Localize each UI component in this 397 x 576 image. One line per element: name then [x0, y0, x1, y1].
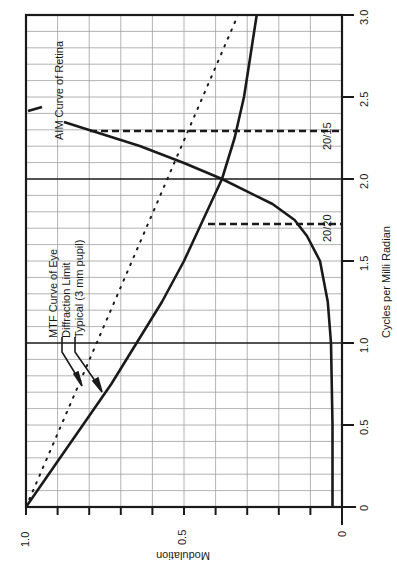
- svg-text:1.5: 1.5: [358, 256, 370, 271]
- label-arrows: [62, 337, 102, 392]
- aim-retina-curve: [64, 122, 333, 507]
- svg-text:2.5: 2.5: [358, 92, 370, 107]
- mtf-title-label: MTF Curve of Eye: [47, 249, 59, 338]
- cycles-axis-labels: 0 0.5 1.0 1.5 2.0 2.5 3.0: [358, 10, 370, 511]
- ref-2020-label: 20/20: [321, 214, 333, 242]
- svg-text:3.0: 3.0: [358, 10, 370, 25]
- diffraction-limit-label: Diffraction Limit: [60, 262, 72, 338]
- svg-text:0: 0: [358, 505, 370, 511]
- svg-text:0.5: 0.5: [358, 420, 370, 435]
- modulation-axis-ticks: [26, 507, 342, 525]
- aim-retina-curve-top: [28, 107, 42, 111]
- svg-text:0: 0: [336, 531, 348, 537]
- svg-text:1.0: 1.0: [19, 532, 31, 547]
- aim-retina-label: AIM Curve of Retina: [53, 40, 65, 140]
- modulation-axis-title: Modulation: [156, 550, 210, 562]
- typical-label: Typical (3 mm pupil): [73, 240, 85, 338]
- cycles-axis-title: Cycles per Milli Radian: [380, 226, 392, 338]
- modulation-axis-labels: 1.0 0.5 0: [19, 530, 348, 547]
- mtf-chart: MTF Curve of Eye Diffraction Limit Typic…: [0, 0, 397, 576]
- cycles-axis-ticks: [342, 15, 356, 507]
- svg-text:1.0: 1.0: [358, 338, 370, 353]
- svg-text:0.5: 0.5: [176, 530, 188, 545]
- svg-text:2.0: 2.0: [358, 174, 370, 189]
- ref-2015-label: 20/15: [321, 122, 333, 150]
